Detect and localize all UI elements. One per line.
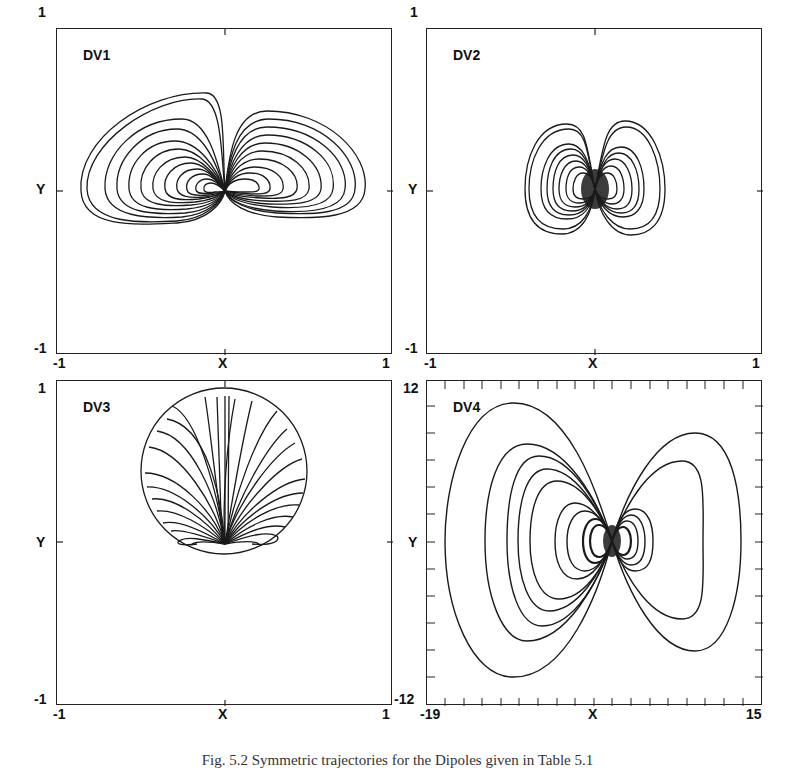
y-axis-label: Y	[36, 534, 45, 550]
x-axis-label: X	[588, 355, 597, 371]
x-min-label: -19	[420, 706, 440, 722]
x-min-label: -1	[53, 706, 65, 722]
x-axis-label: X	[218, 706, 227, 722]
trajectory-plot-dv4	[427, 381, 763, 706]
y-min-label: -1	[34, 691, 46, 707]
plot-area-dv2: DV2	[426, 28, 762, 354]
y-max-label: 12	[403, 380, 419, 396]
figure-caption: Fig. 5.2 Symmetric trajectories for the …	[0, 752, 795, 769]
trajectory-plot-dv3	[57, 381, 393, 706]
x-axis-label: X	[218, 355, 227, 371]
y-max-label: 1	[38, 380, 46, 396]
x-min-label: -1	[424, 355, 436, 371]
trajectory-plot-dv1	[57, 29, 393, 355]
y-min-label: -1	[34, 340, 46, 356]
y-min-label: -1	[405, 340, 417, 356]
y-axis-label: Y	[408, 181, 417, 197]
x-max-label: 15	[746, 706, 762, 722]
y-max-label: 1	[38, 4, 46, 20]
y-max-label: 1	[410, 4, 418, 20]
y-axis-label: Y	[408, 534, 417, 550]
y-min-label: -12	[394, 691, 414, 707]
plot-area-dv3: DV3	[56, 380, 392, 705]
trajectory-plot-dv2	[427, 29, 763, 355]
x-max-label: 1	[752, 355, 760, 371]
x-axis-label: X	[588, 706, 597, 722]
x-max-label: 1	[382, 706, 390, 722]
y-axis-label: Y	[36, 181, 45, 197]
x-max-label: 1	[382, 355, 390, 371]
plot-area-dv1: DV1	[56, 28, 392, 354]
plot-area-dv4: DV4	[426, 380, 762, 705]
x-min-label: -1	[53, 355, 65, 371]
